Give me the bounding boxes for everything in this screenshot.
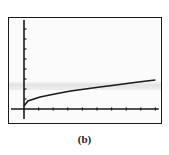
function-curve xyxy=(24,80,155,106)
graph-plot xyxy=(0,0,169,155)
tick-marks xyxy=(24,29,155,111)
figure-caption: (b) xyxy=(0,133,169,145)
axes xyxy=(11,20,159,119)
